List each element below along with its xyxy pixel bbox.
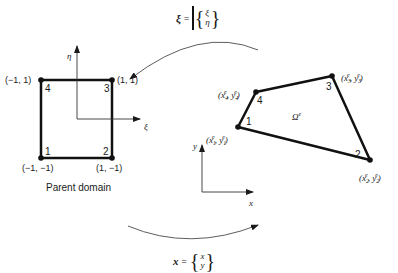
- x-axis-label: x: [249, 198, 253, 208]
- phys-node-3-coord: (x3e, y3e): [341, 70, 363, 86]
- xi-mapping-equation: ξ = { ξ η }: [176, 6, 220, 30]
- parent-node-3-dot: [109, 77, 115, 83]
- parent-node-3-label: 3: [104, 84, 110, 94]
- parent-node-4-coord: (−1, 1): [5, 75, 31, 85]
- y-axis-label: y: [193, 141, 197, 151]
- parent-node-1-dot: [38, 155, 44, 161]
- parent-node-3-coord: (1, 1): [117, 75, 138, 85]
- bar-divider: [192, 6, 194, 30]
- x-y-axes: [202, 145, 253, 192]
- phys-node-2-label: 2: [355, 150, 361, 160]
- parent-node-1-coord: (−1, −1): [22, 163, 54, 173]
- x-mapping-equation: x = { x y }: [173, 251, 215, 271]
- parent-node-1-label: 1: [45, 147, 51, 157]
- phys-node-1-label: 1: [246, 117, 252, 127]
- diagram-canvas: [0, 0, 398, 273]
- parent-node-2-label: 2: [103, 147, 109, 157]
- eta-axis-label: η: [67, 51, 71, 61]
- phys-node-1-coord: (x1e, y1e): [206, 132, 228, 148]
- parent-node-4-dot: [38, 77, 44, 83]
- phys-node-3-label: 3: [326, 82, 332, 92]
- parent-node-2-dot: [109, 155, 115, 161]
- xi-axis-label: ξ: [144, 122, 148, 132]
- mapping-arc-to-parent: [130, 42, 258, 79]
- phys-node-2-coord: (x2e, y2e): [359, 170, 381, 186]
- parent-node-4-label: 4: [45, 84, 51, 94]
- parent-domain-caption: Parent domain: [46, 183, 111, 193]
- phys-node-4-coord: (x4e, y4e): [218, 87, 240, 103]
- omega-e-label: Ωe: [292, 109, 301, 122]
- phys-node-4-label: 4: [257, 96, 263, 106]
- parent-node-2-coord: (1, −1): [96, 163, 122, 173]
- mapping-arc-to-physical: [128, 225, 258, 239]
- physical-element: [235, 73, 373, 163]
